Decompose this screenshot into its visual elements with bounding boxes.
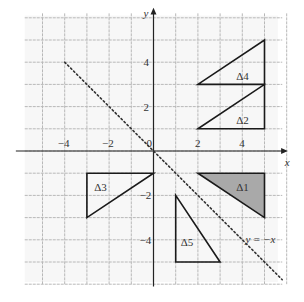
x-tick-label: 2	[195, 137, 201, 149]
triangle-label: Δ1	[236, 181, 249, 193]
grid-diagram: xy0−4−22442−2−4y = −xΔ1Δ2Δ3Δ4Δ5	[0, 0, 304, 302]
triangle-label: Δ2	[236, 114, 249, 126]
x-tick-label: 4	[239, 137, 245, 149]
line-equation-label: y = −x	[244, 233, 275, 245]
x-axis-label: x	[284, 156, 290, 168]
y-axis-label: y	[143, 7, 149, 19]
triangle-label: Δ5	[181, 236, 194, 248]
x-axis-arrow-icon	[281, 148, 288, 154]
triangle-label: Δ3	[94, 181, 107, 193]
y-axis-arrow-icon	[151, 8, 157, 15]
y-tick-label: 4	[144, 56, 150, 68]
coordinate-plane: xy0−4−22442−2−4y = −xΔ1Δ2Δ3Δ4Δ5	[0, 0, 304, 302]
y-tick-label: −2	[140, 189, 152, 201]
x-tick-label: −2	[102, 137, 114, 149]
y-tick-label: 2	[144, 101, 150, 113]
y-tick-label: −4	[140, 234, 152, 246]
x-tick-label: −4	[58, 137, 70, 149]
triangle-label: Δ4	[236, 70, 249, 82]
origin-label: 0	[147, 137, 153, 149]
